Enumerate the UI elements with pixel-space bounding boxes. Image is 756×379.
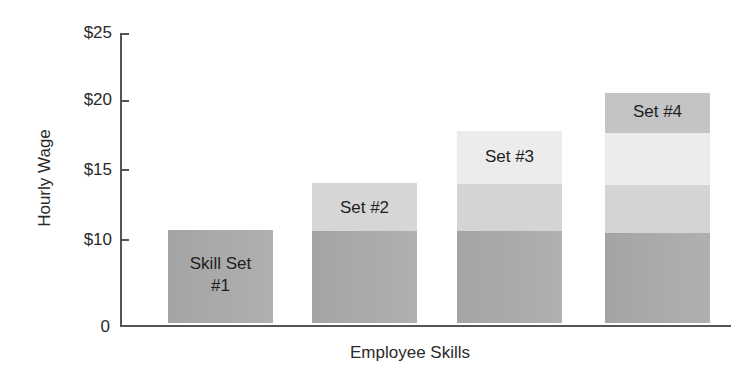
bar-2-segment-set-1 [312,231,417,323]
bar-skill-set-1: Skill Set #1 [168,230,273,323]
y-tick-label-15: $15 [52,160,112,180]
bar-3-segment-set-2 [457,184,562,231]
x-axis-label: Employee Skills [300,343,520,363]
bar-set-2: Set #2 [312,183,417,323]
y-tick-20 [121,100,129,102]
bar-4-segment-set-2 [605,185,710,233]
bar-set-3: Set #3 [457,131,562,323]
bar-3-label: Set #3 [457,146,562,168]
y-tick-25 [121,33,129,35]
bar-1-label-line1: Skill Set [168,253,273,275]
bar-4-segment-set-3 [605,133,710,185]
y-tick-label-20: $20 [52,90,112,110]
bar-set-4: Set #4 [605,93,710,323]
y-tick-label-25: $25 [52,23,112,43]
y-tick-15 [121,169,129,171]
y-tick-label-0: 0 [50,317,110,337]
x-axis-line [120,325,731,327]
bar-1-label-line2: #1 [168,275,273,297]
y-tick-10 [121,239,129,241]
bar-3-segment-set-1 [457,231,562,323]
bar-4-label: Set #4 [605,101,710,123]
bar-2-label: Set #2 [312,197,417,219]
y-axis-line [120,33,122,327]
y-tick-label-10: $10 [52,230,112,250]
bar-4-segment-set-1 [605,233,710,323]
